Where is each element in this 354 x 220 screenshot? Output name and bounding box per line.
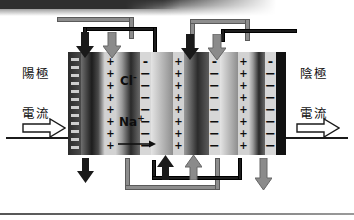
current-arrow-left [22,118,66,138]
label-anode: 陽極 [22,63,49,82]
pipe-top-left-black-riser [153,27,157,53]
membrane-marker: − [265,70,276,77]
membrane-marker: + [106,82,114,89]
diagram-canvas: + + + + + + + + - − − − − − − − + + + + … [0,0,354,220]
membrane-marker: + [106,106,114,113]
membrane-marker: − [209,142,220,149]
cathode-plate [276,52,286,155]
membrane-marker: − [209,118,220,125]
membrane-marker: + [239,118,247,125]
pipe-top-right-gray-horizontal [190,19,250,24]
cell-compartment-4 [184,52,209,155]
membrane-marker: + [174,106,182,113]
anode-plate-markings [69,52,81,155]
current-wire-left [6,137,68,139]
pipe-bottom-gray-horizontal [125,185,220,190]
membrane-marker: + [174,130,182,137]
pipe-top-left-black-horizontal [83,27,157,31]
pipe-top-left-gray-horizontal [57,17,134,22]
cell-compartment-5 [220,52,238,155]
membrane-marker: − [209,130,220,137]
membrane-marker: − [140,94,151,101]
membrane-marker: + [239,142,247,149]
membrane-marker: − [265,94,276,101]
feed-in-top-gray-right-arrow [208,34,226,60]
sodium-symbol: Na [119,115,137,129]
recirc-bottom-gray-arrow [185,155,202,180]
pipe-top-right-black-horizontal [221,29,297,33]
membrane-marker: + [106,70,114,77]
anion-membrane-3: - − − − − − − − [265,52,276,155]
membrane-marker: + [239,58,247,65]
membrane-marker: + [106,58,114,65]
membrane-marker: + [239,70,247,77]
feed-in-top-black-right-arrow [181,34,199,60]
membrane-marker: - [143,58,148,65]
outflow-bottom-black-left-arrow [77,158,94,183]
bottom-border-line [0,213,354,215]
membrane-marker: + [239,94,247,101]
membrane-marker: − [209,106,220,113]
membrane-marker: − [209,70,220,77]
anion-membrane-2: - − − − − − − − [209,52,220,155]
membrane-marker: − [209,82,220,89]
membrane-marker: + [106,130,114,137]
membrane-marker: + [174,118,182,125]
cation-membrane-1: + + + + + + + + [105,52,116,155]
membrane-stack: + + + + + + + + - − − − − − − − + + + + … [68,52,286,155]
membrane-marker: − [140,82,151,89]
cation-membrane-3: + + + + + + + + [238,52,249,155]
membrane-marker: + [239,82,247,89]
membrane-marker: − [140,106,151,113]
ion-migration-arrow [118,139,156,149]
recirc-bottom-black-arrow [157,155,174,180]
current-arrow-right [296,118,340,138]
pipe-bottom-gray-right-riser [215,158,220,190]
membrane-marker: + [239,106,247,113]
cell-compartment-6 [249,52,265,155]
cation-membrane-2: + + + + + + + + [173,52,184,155]
membrane-marker: + [106,142,114,149]
membrane-marker: + [106,118,114,125]
sodium-charge: + [137,113,145,123]
membrane-marker: - [268,58,273,65]
chloride-symbol: Cl [120,74,133,88]
membrane-marker: + [239,130,247,137]
feed-in-top-black-left-arrow [76,32,94,58]
outflow-bottom-gray-right-arrow [255,158,272,190]
membrane-marker: + [106,94,114,101]
pipe-bottom-black-right-riser [238,158,242,180]
membrane-marker: − [265,118,276,125]
membrane-marker: − [265,130,276,137]
membrane-marker: + [174,70,182,77]
membrane-marker: − [265,106,276,113]
membrane-marker: − [140,130,151,137]
membrane-marker: + [174,142,182,149]
membrane-marker: − [140,70,151,77]
membrane-marker: + [174,82,182,89]
membrane-marker: − [265,142,276,149]
membrane-marker: − [265,82,276,89]
current-wire-right [286,137,348,139]
membrane-marker: + [174,94,182,101]
chloride-charge: - [133,72,137,82]
scan-shadow-edge [0,0,180,9]
label-cathode: 陰極 [300,63,327,82]
label-sodium-ion: Na+ [119,113,145,129]
feed-in-top-gray-left-arrow [103,32,121,58]
cell-compartment-1 [81,52,105,155]
membrane-marker: − [209,94,220,101]
label-chloride-ion: Cl- [120,72,137,88]
